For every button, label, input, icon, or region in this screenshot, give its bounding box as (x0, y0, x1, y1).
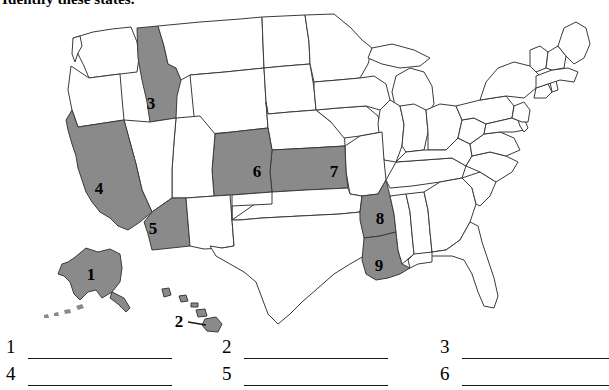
answer-blank-line-1[interactable] (28, 358, 172, 359)
answer-item-4[interactable]: 4 (6, 363, 186, 390)
answer-number-5: 5 (222, 363, 232, 385)
state-alaska-panhandle (110, 292, 130, 312)
state-outline-group (44, 14, 590, 332)
state-washington (73, 27, 139, 78)
state-michigan-upper-peninsula (368, 44, 430, 68)
answer-blanks-area: 1 2 3 4 5 6 (0, 336, 609, 390)
answer-blank-line-4[interactable] (28, 385, 172, 386)
state-missouri (345, 132, 386, 196)
state-utah (172, 116, 215, 198)
map-label-4: 4 (95, 179, 104, 198)
state-alaska-aleutian-1 (76, 304, 84, 310)
answer-blank-line-5[interactable] (244, 385, 388, 386)
united-states-map: 1 2 3 4 5 6 7 8 9 (0, 6, 609, 336)
answer-number-1: 1 (6, 336, 16, 358)
state-north-dakota (262, 15, 310, 68)
map-container: 1 2 3 4 5 6 7 8 9 (0, 6, 609, 336)
state-south-dakota (264, 64, 316, 114)
state-alaska-aleutian-2 (64, 309, 71, 314)
state-hawaii-molokai (191, 303, 198, 307)
map-label-3: 3 (147, 94, 156, 113)
answer-item-6[interactable]: 6 (440, 363, 609, 390)
map-label-8: 8 (376, 209, 385, 228)
map-label-1: 1 (87, 265, 96, 284)
answer-item-1[interactable]: 1 (6, 336, 186, 363)
state-hawaii-kauai (162, 288, 171, 297)
state-new-mexico (186, 195, 234, 249)
answer-blank-line-6[interactable] (462, 385, 609, 386)
answer-blank-line-2[interactable] (244, 358, 388, 359)
state-alaska-aleutian-3 (54, 312, 59, 316)
state-wisconsin (314, 76, 390, 110)
answer-item-3[interactable]: 3 (440, 336, 609, 363)
answer-blank-line-3[interactable] (462, 358, 609, 359)
state-texas (210, 212, 368, 324)
state-hawaii-maui (196, 309, 207, 317)
answer-number-2: 2 (222, 336, 232, 358)
answer-item-5[interactable]: 5 (222, 363, 402, 390)
state-hawaii-oahu (179, 295, 188, 302)
state-indiana (400, 104, 428, 152)
map-label-7: 7 (330, 162, 339, 181)
answer-number-6: 6 (440, 363, 450, 385)
answer-row-2: 4 5 6 (0, 363, 609, 390)
map-label-5: 5 (149, 219, 158, 238)
map-label-9: 9 (375, 256, 384, 275)
state-colorado (212, 128, 272, 196)
state-minnesota (305, 14, 372, 82)
map-label-2: 2 (175, 312, 184, 331)
map-label-6: 6 (253, 162, 262, 181)
state-new-jersey (512, 102, 530, 122)
answer-number-4: 4 (6, 363, 16, 385)
answer-row-1: 1 2 3 (0, 336, 609, 363)
worksheet: Identify these states. (0, 0, 609, 390)
state-alaska-aleutian-4 (44, 314, 49, 318)
answer-number-3: 3 (440, 336, 450, 358)
answer-item-2[interactable]: 2 (222, 336, 402, 363)
state-vermont (530, 46, 548, 72)
